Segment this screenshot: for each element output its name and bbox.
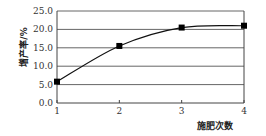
y-axis-ticks: 0.05.010.015.020.025.0 <box>33 6 53 108</box>
y-tick-label: 15.0 <box>33 43 53 53</box>
y-tick-label: 5.0 <box>39 80 54 90</box>
x-tick-label: 2 <box>116 106 122 116</box>
data-point-marker <box>241 23 247 29</box>
x-axis-ticks: 1234 <box>54 100 247 116</box>
y-axis-title: 增产率/% <box>18 27 29 66</box>
line-chart: 0.05.010.015.020.025.0 1234 增产率/% 施肥次数 <box>0 0 266 136</box>
data-markers <box>54 23 247 85</box>
gridlines <box>57 11 244 85</box>
data-point-marker <box>116 43 122 49</box>
y-tick-label: 0.0 <box>39 98 54 108</box>
data-line <box>57 25 244 81</box>
x-tick-label: 3 <box>179 106 185 116</box>
x-tick-label: 4 <box>241 106 247 116</box>
axes <box>57 11 244 103</box>
y-tick-label: 25.0 <box>33 6 53 16</box>
data-point-marker <box>179 25 185 31</box>
y-tick-label: 10.0 <box>33 61 53 71</box>
x-axis-title: 施肥次数 <box>197 120 234 131</box>
y-tick-label: 20.0 <box>33 24 53 34</box>
x-tick-label: 1 <box>54 106 60 116</box>
data-point-marker <box>54 79 60 85</box>
